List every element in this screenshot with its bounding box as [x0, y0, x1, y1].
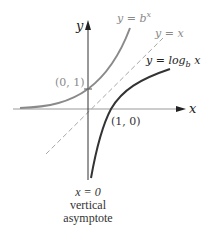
asymptote-annotation: x = 0 vertical asymptote — [48, 186, 128, 225]
x-axis-arrow-icon — [176, 106, 186, 112]
identity-label: y = x — [154, 27, 184, 40]
y-axis-arrow-icon — [85, 20, 91, 30]
exponential-label: y = bx — [116, 10, 151, 25]
y-axis-label: y — [75, 18, 84, 33]
point-1-0-label: (1, 0) — [111, 115, 141, 128]
exponential-curve — [20, 28, 130, 108]
point-0-1-label: (0, 1) — [55, 76, 85, 89]
x-axis-label: x — [189, 101, 197, 116]
asymptote-line2: asymptote — [48, 212, 128, 225]
logarithm-label: y = logb x — [145, 54, 201, 69]
